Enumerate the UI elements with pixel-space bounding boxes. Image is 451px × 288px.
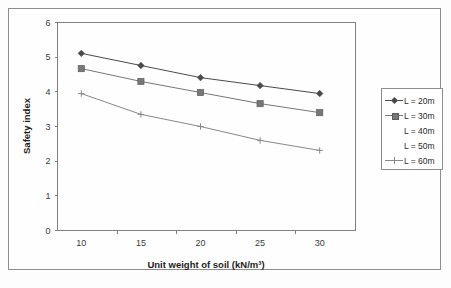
legend-item-l-30m[interactable]: L = 30m (385, 108, 439, 123)
data-point-marker (257, 101, 263, 107)
y-tick-label: 4 (45, 87, 50, 97)
data-point-marker (197, 74, 203, 80)
y-tick-group: 0123456 (45, 18, 57, 236)
series-group (78, 50, 323, 153)
legend-marker-diamond-icon (385, 95, 403, 106)
y-tick-label: 1 (45, 191, 50, 201)
legend-label: L = 60m (404, 156, 435, 166)
y-tick-label: 0 (45, 226, 50, 236)
data-point-marker (317, 110, 323, 116)
legend-point-sample (391, 97, 398, 104)
legend-item-l-20m[interactable]: L = 20m (385, 93, 439, 108)
data-point-marker (78, 66, 84, 72)
x-tick-group: 1015202530 (76, 231, 324, 248)
legend-label: L = 30m (404, 111, 435, 121)
legend-point-sample (392, 113, 399, 120)
x-tick-label: 15 (136, 238, 146, 248)
data-point-marker (78, 50, 84, 56)
legend-item-l-40m[interactable]: L = 40m (385, 123, 439, 138)
y-tick-label: 3 (45, 122, 50, 132)
data-point-marker (197, 89, 203, 95)
chart-legend: L = 20mL = 30mL = 40mL = 50mL = 60m (381, 88, 443, 170)
figure-root: 0123456 1015202530 Unit weight of soil (… (0, 0, 451, 288)
y-tick-label: 6 (45, 18, 50, 28)
data-point-marker (257, 82, 263, 88)
x-tick-label: 10 (76, 238, 86, 248)
data-series (78, 66, 323, 116)
legend-label: L = 20m (404, 96, 435, 106)
x-tick-label: 30 (315, 238, 325, 248)
x-axis-title: Unit weight of soil (kN/m³) (147, 259, 264, 270)
x-tick-label: 25 (255, 238, 265, 248)
legend-marker-square-icon (385, 110, 403, 121)
series-line (81, 94, 319, 151)
x-tick-label: 20 (195, 238, 205, 248)
legend-point-sample (391, 157, 398, 164)
data-point-marker (317, 90, 323, 96)
plot-axes (58, 23, 356, 231)
legend-label: L = 40m (404, 126, 435, 136)
legend-label: L = 50m (404, 141, 435, 151)
legend-item-l-60m[interactable]: L = 60m (385, 153, 439, 168)
legend-marker-plus-icon (385, 155, 403, 166)
y-tick-label: 2 (45, 156, 50, 166)
data-series (78, 90, 323, 153)
y-axis-title: Safety index (21, 97, 32, 154)
y-tick-label: 5 (45, 52, 50, 62)
legend-item-l-50m[interactable]: L = 50m (385, 138, 439, 153)
data-point-marker (138, 62, 144, 68)
series-line (81, 53, 319, 93)
data-point-marker (138, 78, 144, 84)
